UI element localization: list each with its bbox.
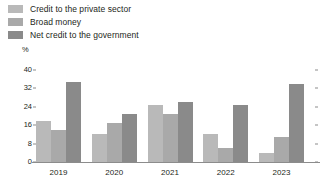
bar [178, 102, 193, 162]
legend-swatch-icon [8, 31, 23, 39]
bar [107, 123, 122, 162]
y-axis-tick-label: 16 [24, 121, 32, 129]
bar [203, 134, 218, 162]
y-axis-tick-mark-right [315, 143, 318, 144]
y-axis-tick-label: 24 [24, 103, 32, 111]
x-axis-category-label: 2022 [203, 168, 248, 177]
legend-item: Credit to the private sector [8, 3, 308, 15]
bar [274, 137, 289, 162]
bar-group: 2020 [92, 70, 137, 162]
y-axis-tick-mark-right [315, 70, 318, 71]
bar-group: 2022 [203, 70, 248, 162]
y-axis-tick-label: 32 [24, 84, 32, 92]
y-axis-tick-label: 8 [28, 140, 32, 148]
legend-label: Net credit to the government [30, 31, 139, 40]
bar [122, 114, 137, 162]
chart-legend: Credit to the private sectorBroad moneyN… [8, 3, 308, 42]
bar-group: 2021 [148, 70, 193, 162]
bar [218, 148, 233, 162]
legend-label: Credit to the private sector [30, 5, 131, 14]
bar-groups: 20192020202120222023 [36, 70, 304, 162]
bar-chart: Credit to the private sectorBroad moneyN… [0, 0, 324, 185]
bar [233, 105, 248, 163]
y-axis-tick-label: 40 [24, 66, 32, 74]
bar [92, 134, 107, 162]
bar [148, 105, 163, 163]
x-axis-category-label: 2020 [92, 168, 137, 177]
bar [66, 82, 81, 163]
bar [36, 121, 51, 162]
bar-group: 2023 [259, 70, 304, 162]
bar [289, 84, 304, 162]
legend-swatch-icon [8, 5, 23, 13]
x-axis-category-label: 2023 [259, 168, 304, 177]
legend-swatch-icon [8, 18, 23, 26]
bar-group: 2019 [36, 70, 81, 162]
x-axis-category-label: 2021 [148, 168, 193, 177]
legend-label: Broad money [30, 18, 81, 27]
bar [51, 130, 66, 162]
legend-item: Net credit to the government [8, 29, 308, 41]
plot-area: 0816243240 20192020202120222023 [36, 70, 304, 162]
legend-item: Broad money [8, 16, 308, 28]
x-axis-category-label: 2019 [36, 168, 81, 177]
y-axis-tick-mark-right [315, 88, 318, 89]
y-axis-tick-mark-right [315, 106, 318, 107]
y-axis-tick-mark-right [315, 125, 318, 126]
bar [259, 153, 274, 162]
x-axis-baseline [32, 162, 320, 163]
y-axis-unit-label: % [22, 46, 29, 54]
bar [163, 114, 178, 162]
